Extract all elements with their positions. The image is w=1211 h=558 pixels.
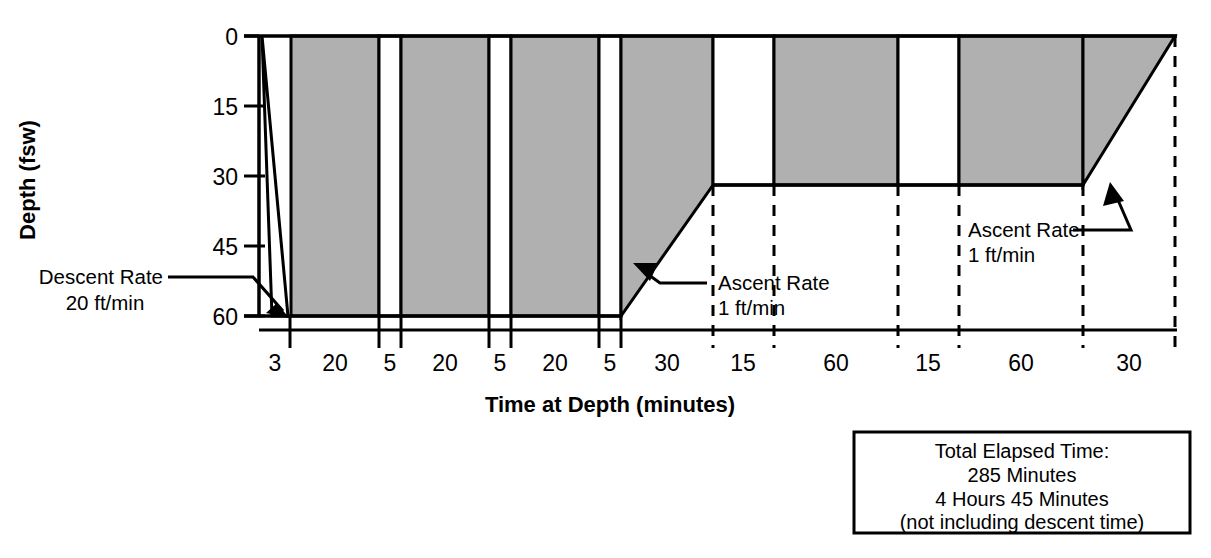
segment-bottom-5-b [489,36,511,316]
x-segment-label-5-c: 5 [604,350,617,376]
segment-bottom-5-c [599,36,621,316]
segment-stop-15-a [713,36,774,185]
x-segment-label-5-b: 5 [494,350,507,376]
x-axis-title: Time at Depth (minutes) [485,392,735,417]
dive-profile-figure: 0 15 30 45 60 Depth (fsw) 3 20 5 20 5 [0,0,1211,558]
ascent-rate-1-label-line1: Ascent Rate [718,271,830,294]
segment-bottom-20-c [511,36,599,316]
dive-profile-chart: 0 15 30 45 60 Depth (fsw) 3 20 5 20 5 [0,0,1211,558]
x-segment-label-15-a: 15 [730,350,756,376]
y-tick-label-15: 15 [212,94,238,120]
y-axis-ticks [244,36,265,316]
segment-descent-3 [262,36,288,316]
segment-bottom-20-b [401,36,489,316]
ascent-rate-2-arrowhead [1103,182,1124,206]
total-elapsed-time-line4: (not including descent time) [900,511,1145,533]
x-segment-label-30-a: 30 [654,350,680,376]
segment-stop-15-b [898,36,959,185]
x-segment-label-15-b: 15 [915,350,941,376]
segment-stop-60-a [774,36,898,185]
total-elapsed-time-line2: 285 Minutes [968,464,1077,486]
descent-rate-label-line2: 20 ft/min [66,291,145,314]
y-tick-label-60: 60 [212,304,238,330]
x-segment-label-3-descent: 3 [269,350,282,376]
x-segment-label-20-b: 20 [432,350,458,376]
total-elapsed-time-line3: 4 Hours 45 Minutes [935,488,1108,510]
ascent-rate-2-label-line1: Ascent Rate [968,218,1080,241]
segment-bottom-5-a [379,36,401,316]
descent-rate-label-line1: Descent Rate [39,265,163,288]
y-axis-title: Depth (fsw) [15,120,40,240]
y-tick-label-30: 30 [212,164,238,190]
segment-ascent-30-b [1083,36,1175,185]
ascent-rate-1-annotation: Ascent Rate 1 ft/min [633,263,830,319]
ascent-rate-1-label-line2: 1 ft/min [718,296,785,319]
descent-rate-annotation: Descent Rate 20 ft/min [39,265,289,318]
segment-stop-60-b [959,36,1083,185]
total-elapsed-time-line1: Total Elapsed Time: [935,440,1110,462]
x-segment-label-20-a: 20 [322,350,348,376]
x-segment-label-60-b: 60 [1008,350,1034,376]
x-segment-label-30-b: 30 [1116,350,1142,376]
total-elapsed-time-box: Total Elapsed Time: 285 Minutes 4 Hours … [854,432,1190,533]
x-segment-label-20-c: 20 [542,350,568,376]
segment-ascent-30-a [621,36,713,316]
x-segment-label-60-a: 60 [823,350,849,376]
y-tick-label-0: 0 [225,24,238,50]
x-segment-label-5-a: 5 [384,350,397,376]
ascent-rate-2-annotation: Ascent Rate 1 ft/min [968,182,1131,266]
segment-bottom-20-a [291,36,379,316]
ascent-rate-2-label-line2: 1 ft/min [968,243,1035,266]
y-tick-label-45: 45 [212,234,238,260]
